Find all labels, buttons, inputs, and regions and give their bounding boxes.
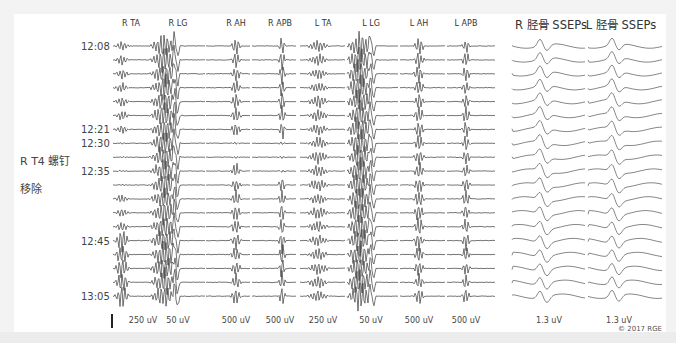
scale-label: 500 uV: [266, 316, 294, 325]
scale-label: 50 uV: [359, 316, 382, 325]
column-header: R APB: [268, 19, 292, 28]
column-header: R AH: [226, 19, 246, 28]
column-header: R TA: [122, 19, 140, 28]
time-label: 12:21: [81, 124, 110, 135]
column-header: R LG: [169, 19, 188, 28]
ssep-scale-label: 1.3 uV: [536, 316, 562, 325]
scale-bar: [111, 314, 113, 328]
copyright: © 2017 RGE: [618, 325, 662, 333]
annotation-line2: 移除: [20, 180, 42, 196]
time-label: 12:35: [81, 166, 110, 177]
scale-label: 500 uV: [405, 316, 433, 325]
time-label: 12:30: [81, 138, 110, 149]
column-header: L TA: [315, 19, 332, 28]
ssep-column-header: R 胫骨 SSEPs: [515, 16, 587, 32]
column-header: L LG: [362, 19, 380, 28]
scale-label: 250 uV: [309, 316, 337, 325]
scale-label: 250 uV: [129, 316, 157, 325]
time-label: 13:05: [81, 291, 110, 302]
ssep-scale-label: 1.3 uV: [606, 316, 632, 325]
time-label: 12:08: [81, 41, 110, 52]
column-header: L APB: [455, 19, 478, 28]
scale-label: 500 uV: [452, 316, 480, 325]
time-label: 12:45: [81, 235, 110, 246]
annotation-line1: R T4 螺钉: [20, 152, 70, 168]
scale-label: 500 uV: [222, 316, 250, 325]
ssep-column-header: L 胫骨 SSEPs: [586, 16, 656, 32]
column-header: L AH: [410, 19, 429, 28]
scale-label: 50 uV: [166, 316, 189, 325]
